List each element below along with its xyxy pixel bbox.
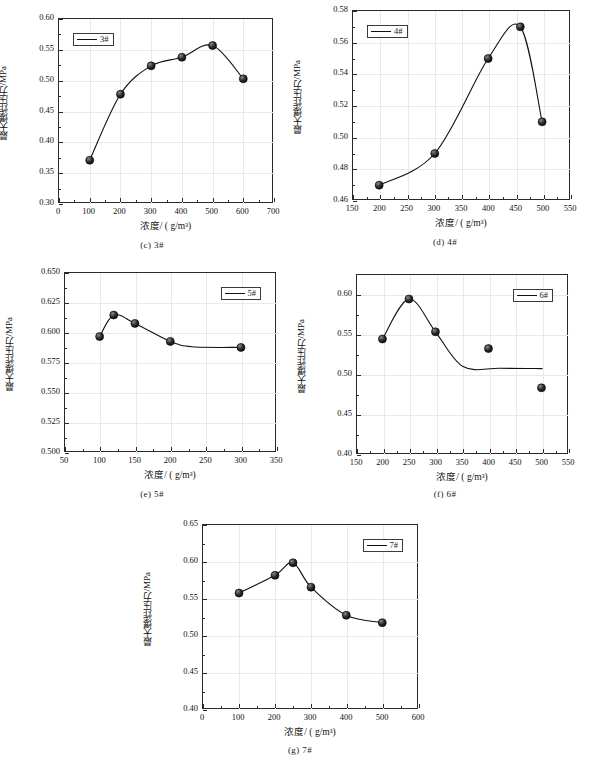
y-tick-label: 0.45	[18, 105, 54, 115]
y-tick-label: 0.35	[18, 166, 54, 176]
legend-f: 6#	[513, 289, 554, 302]
data-point	[431, 328, 439, 336]
chart-panel-d: 4#0.460.480.500.520.540.560.581502002503…	[300, 0, 590, 256]
data-point	[237, 343, 245, 351]
figure-d: 4#0.460.480.500.520.540.560.581502002503…	[300, 0, 590, 256]
figure-panel-grid: 3#0.300.350.400.450.500.550.600100200300…	[0, 0, 599, 772]
y-axis-label: 最大爆炸压力/MPa	[2, 317, 15, 391]
legend-label: 6#	[540, 291, 549, 300]
plot-area-g: 7#	[202, 524, 418, 709]
figure-e: 5#0.5000.5250.5500.5750.6000.6250.650501…	[12, 262, 292, 508]
y-tick-label: 0.550	[24, 386, 60, 396]
y-tick-label: 0.65	[162, 518, 198, 528]
x-tickmark	[569, 449, 570, 453]
legend-line-swatch	[77, 39, 97, 40]
x-axis-label: 浓度/ ( g/m³)	[356, 469, 568, 483]
figure-f: 6#0.400.450.500.550.60150200250300350400…	[300, 262, 590, 508]
y-tick-label: 0.575	[24, 356, 60, 366]
legend-g: 7#	[363, 539, 404, 552]
legend-label: 7#	[390, 541, 399, 550]
x-tick-label: 150	[119, 455, 151, 465]
y-tick-label: 0.48	[312, 162, 348, 172]
y-axis-label: 最大爆炸压力/MPa	[0, 66, 9, 140]
y-tickmark	[203, 710, 207, 711]
data-point	[378, 335, 386, 343]
data-point	[86, 156, 94, 164]
data-point	[516, 23, 524, 31]
y-tick-label: 0.58	[312, 4, 348, 14]
y-tick-label: 0.60	[316, 288, 352, 298]
data-point	[342, 611, 350, 619]
y-tick-label: 0.40	[18, 135, 54, 145]
data-point	[307, 583, 315, 591]
y-tickmark	[357, 455, 361, 456]
series-4#	[353, 11, 571, 201]
legend-line-swatch	[367, 545, 387, 546]
x-axis-label: 浓度/ ( g/m³)	[64, 467, 276, 481]
figure-caption-c: (c) 3#	[12, 240, 292, 250]
plot-area-e: 5#	[64, 272, 276, 452]
legend-label: 3#	[100, 35, 109, 44]
x-tick-label: 100	[222, 712, 254, 722]
legend-line-swatch	[371, 31, 391, 32]
series-5#	[65, 273, 277, 453]
y-tick-label: 0.600	[24, 326, 60, 336]
x-tick-label: 600	[402, 712, 434, 722]
x-tick-label: 200	[103, 206, 135, 216]
data-point	[178, 53, 186, 61]
data-point	[538, 118, 546, 126]
x-tick-label: 500	[196, 206, 228, 216]
series-6#	[357, 275, 569, 455]
x-tick-label: 700	[257, 206, 289, 216]
x-tick-label: 300	[225, 455, 257, 465]
data-point	[484, 345, 492, 353]
x-tick-label: 300	[134, 206, 166, 216]
x-tick-label: 50	[48, 455, 80, 465]
plot-area-d: 4#	[352, 10, 570, 200]
plot-area-f: 6#	[356, 274, 568, 454]
figure-caption-f: (f) 6#	[300, 489, 590, 499]
x-tick-label: 400	[330, 712, 362, 722]
x-tick-label: 250	[189, 455, 221, 465]
series-7#	[203, 525, 419, 710]
figure-caption-e: (e) 5#	[12, 489, 292, 499]
x-axis-label: 浓度/ ( g/m³)	[352, 215, 570, 229]
chart-panel-g: 7#0.400.450.500.550.600.6501002003004005…	[150, 512, 450, 770]
x-tickmark	[419, 704, 420, 708]
y-tick-label: 0.60	[162, 555, 198, 565]
legend-d: 4#	[367, 25, 408, 38]
y-tick-label: 0.50	[18, 74, 54, 84]
x-tick-label: 0	[42, 206, 74, 216]
legend-line-swatch	[225, 293, 245, 294]
legend-line-swatch	[517, 295, 537, 296]
x-tick-label: 350	[260, 455, 292, 465]
x-tick-label: 200	[154, 455, 186, 465]
data-point	[484, 55, 492, 63]
x-tick-label: 400	[165, 206, 197, 216]
data-point	[209, 42, 217, 50]
data-point	[235, 589, 243, 597]
x-tick-label: 100	[83, 455, 115, 465]
data-point	[96, 333, 104, 341]
chart-panel-e: 5#0.5000.5250.5500.5750.6000.6250.650501…	[12, 262, 292, 508]
data-point	[110, 311, 118, 319]
legend-label: 4#	[394, 27, 403, 36]
x-axis-label: 浓度/ ( g/m³)	[202, 724, 418, 738]
y-tick-label: 0.650	[24, 266, 60, 276]
data-point	[405, 295, 413, 303]
x-tick-label: 550	[552, 457, 584, 467]
x-tickmark	[571, 195, 572, 199]
y-tick-label: 0.60	[18, 12, 54, 22]
y-axis-label: 最大爆炸压力/MPa	[294, 319, 307, 393]
x-tick-label: 0	[186, 712, 218, 722]
data-point	[431, 150, 439, 158]
chart-panel-f: 6#0.400.450.500.550.60150200250300350400…	[300, 262, 590, 508]
data-point	[375, 181, 383, 189]
y-tickmark	[59, 204, 63, 205]
legend-label: 5#	[248, 289, 257, 298]
y-tick-label: 0.54	[312, 67, 348, 77]
y-tick-label: 0.50	[162, 629, 198, 639]
y-tickmark	[65, 453, 69, 454]
x-tickmark	[277, 447, 278, 451]
legend-e: 5#	[221, 287, 262, 300]
